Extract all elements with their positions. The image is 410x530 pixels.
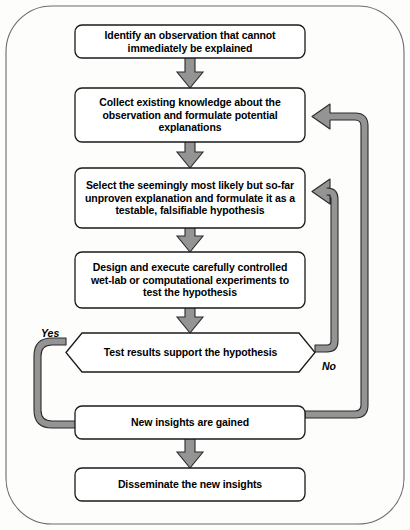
branch-label-yes: Yes	[41, 327, 59, 339]
arrow-insights-to-disseminate	[177, 438, 203, 468]
branch-label-no: No	[322, 360, 336, 372]
flowchart-canvas: Identify an observation that cannot imme…	[0, 0, 410, 530]
arrow-collect-to-hypothesis	[177, 141, 203, 168]
arrow-loop-no-to-hypothesis	[312, 179, 338, 352]
arrow-observation-to-collect	[177, 57, 203, 88]
arrow-hypothesis-to-experiments	[177, 227, 203, 252]
node-insights	[75, 406, 305, 439]
node-collect-knowledge	[75, 88, 305, 142]
arrow-experiments-to-decision	[177, 307, 203, 333]
flowchart-svg	[0, 0, 410, 530]
node-observation	[75, 25, 305, 58]
node-experiments	[75, 252, 305, 308]
node-decision	[66, 333, 315, 372]
node-hypothesis	[75, 168, 305, 228]
node-disseminate	[75, 468, 305, 501]
